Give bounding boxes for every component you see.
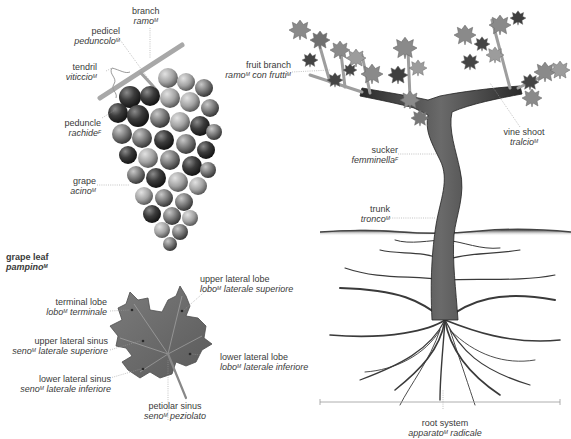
label-peduncle: peduncle rachideF [64, 118, 101, 138]
label-petiolar-sinus: petiolar sinus senoM peziolato [140, 401, 210, 421]
label-grape: grape acinoM [70, 176, 96, 196]
label-tendril: tendril viticcioM [66, 62, 97, 82]
label-fruit-branch: fruit branch ramoM con fruttiM [225, 60, 291, 80]
vine-art [289, 11, 571, 405]
label-pedicel: pedicel peduncoloM [74, 26, 120, 46]
label-trunk: trunk troncoM [361, 204, 390, 224]
label-upper-lateral-sinus: upper lateral sinus senoM laterale super… [12, 336, 108, 356]
grape-leaf-art [110, 286, 212, 398]
grape-cluster-art [100, 45, 222, 251]
label-vine-shoot: vine shoot tralcioM [494, 127, 554, 147]
title-grape-leaf: grape leaf pampinoM [6, 252, 49, 272]
vine-diagram: branch ramoM pedicel peduncoloM tendril … [0, 0, 571, 439]
label-lower-lateral-lobe: lower lateral lobe loboM laterale inferi… [220, 352, 308, 372]
label-sucker: sucker femminellaF [351, 145, 398, 165]
label-terminal-lobe: terminal lobe loboM terminale [46, 297, 107, 317]
label-root-system: root system apparatoM radicale [400, 418, 490, 438]
label-upper-lateral-lobe: upper lateral lobe loboM laterale superi… [200, 274, 293, 294]
label-branch: branch ramoM [132, 6, 160, 26]
label-lower-lateral-sinus: lower lateral sinus senoM laterale infer… [20, 374, 111, 394]
